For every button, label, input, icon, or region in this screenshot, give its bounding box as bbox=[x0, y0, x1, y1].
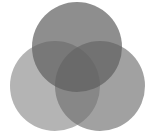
circle-top bbox=[32, 2, 122, 92]
venn-diagram bbox=[0, 0, 149, 137]
venn-svg bbox=[0, 0, 149, 137]
